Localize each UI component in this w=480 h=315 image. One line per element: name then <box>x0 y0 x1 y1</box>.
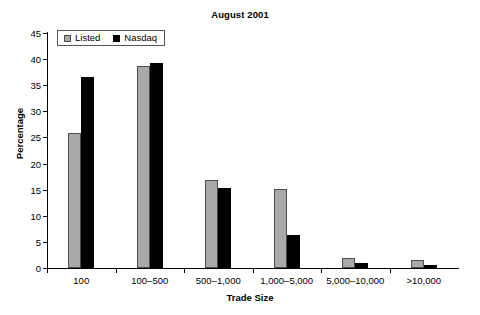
y-tick-label: 30 <box>30 106 41 117</box>
y-tick-mark <box>43 164 47 165</box>
y-tick-mark <box>43 111 47 112</box>
bar-listed-2 <box>205 180 218 268</box>
y-tick-label: 35 <box>30 80 41 91</box>
bar-nasdaq-5 <box>424 265 437 268</box>
y-tick-label: 0 <box>36 263 41 274</box>
y-tick-label: 5 <box>36 236 41 247</box>
y-tick-mark <box>43 85 47 86</box>
plot-area: 051015202530354045 <box>47 33 458 268</box>
chart-figure: August 2001 Percentage Trade Size 051015… <box>0 0 480 315</box>
y-tick-label: 20 <box>30 158 41 169</box>
chart-legend: ListedNasdaq <box>57 30 165 46</box>
x-tick-mark <box>47 268 48 273</box>
y-tick-mark <box>43 242 47 243</box>
y-tick-label: 45 <box>30 28 41 39</box>
bar-nasdaq-0 <box>81 77 94 268</box>
x-tick-mark <box>321 268 322 273</box>
y-tick-mark <box>43 216 47 217</box>
x-tick-label: 5,000–10,000 <box>326 275 384 286</box>
y-axis-label: Percentage <box>14 94 25 174</box>
legend-label: Listed <box>75 33 100 43</box>
x-tick-label: 1,000–5,000 <box>260 275 313 286</box>
y-tick-label: 15 <box>30 184 41 195</box>
x-tick-label: 500–1,000 <box>196 275 241 286</box>
x-tick-mark <box>253 268 254 273</box>
x-tick-label: >10,000 <box>406 275 441 286</box>
bar-listed-0 <box>68 133 81 268</box>
legend-label: Nasdaq <box>124 33 157 43</box>
y-tick-mark <box>43 190 47 191</box>
chart-title: August 2001 <box>0 9 480 20</box>
bar-listed-4 <box>342 258 355 268</box>
y-tick-label: 10 <box>30 210 41 221</box>
y-tick-label: 25 <box>30 132 41 143</box>
bar-listed-5 <box>411 260 424 268</box>
x-tick-label: 100–500 <box>131 275 168 286</box>
bar-nasdaq-1 <box>150 63 163 268</box>
legend-item-listed: Listed <box>64 33 100 43</box>
bar-nasdaq-4 <box>355 263 368 268</box>
y-tick-mark <box>43 33 47 34</box>
x-tick-label: 100 <box>73 275 89 286</box>
x-tick-mark <box>184 268 185 273</box>
x-tick-mark <box>116 268 117 273</box>
y-tick-label: 40 <box>30 54 41 65</box>
legend-swatch-icon <box>64 35 71 42</box>
bar-nasdaq-3 <box>287 235 300 268</box>
y-tick-mark <box>43 137 47 138</box>
bar-listed-1 <box>137 66 150 268</box>
y-tick-mark <box>43 59 47 60</box>
legend-swatch-icon <box>113 35 120 42</box>
x-tick-mark <box>390 268 391 273</box>
x-axis-label: Trade Size <box>40 292 460 303</box>
bar-nasdaq-2 <box>218 188 231 268</box>
bar-listed-3 <box>274 189 287 268</box>
legend-item-nasdaq: Nasdaq <box>113 33 157 43</box>
